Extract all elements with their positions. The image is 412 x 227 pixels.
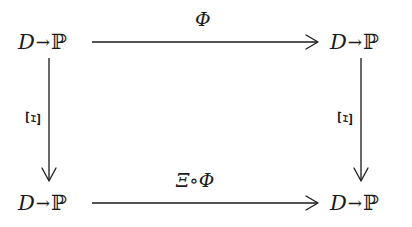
node-bottom-right: D→ℙ xyxy=(330,193,379,214)
label-top-phi: Φ xyxy=(195,10,211,29)
node-top-left: D→ℙ xyxy=(18,32,67,53)
label-bottom-composition: Ξ∘Φ xyxy=(176,171,214,190)
node-codomain: ℙ xyxy=(51,30,67,54)
node-domain: D xyxy=(330,30,347,54)
node-domain: D xyxy=(330,191,347,215)
mapping-arrow-icon: → xyxy=(36,193,50,213)
mapping-arrow-icon: → xyxy=(348,32,362,52)
arrow-top xyxy=(92,35,318,49)
node-domain: D xyxy=(18,191,35,215)
node-codomain: ℙ xyxy=(363,30,379,54)
label-right-xi: Ξ xyxy=(335,112,354,125)
node-codomain: ℙ xyxy=(51,191,67,215)
node-codomain: ℙ xyxy=(363,191,379,215)
node-domain: D xyxy=(18,30,35,54)
mapping-arrow-icon: → xyxy=(348,193,362,213)
node-bottom-left: D→ℙ xyxy=(18,193,67,214)
label-left-xi: Ξ xyxy=(23,112,42,125)
node-top-right: D→ℙ xyxy=(330,32,379,53)
commutative-diagram: D→ℙ D→ℙ D→ℙ D→ℙ Φ Ξ∘Φ Ξ Ξ xyxy=(0,0,412,227)
mapping-arrow-icon: → xyxy=(36,32,50,52)
arrow-bottom xyxy=(92,196,318,210)
